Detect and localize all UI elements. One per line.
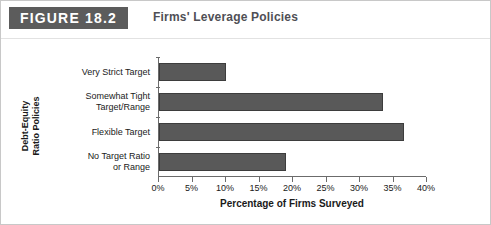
chart: Debt-Equity Ratio Policies Very Strict T… [1, 41, 491, 225]
figure-container: FIGURE 18.2 Firms' Leverage Policies Deb… [0, 0, 491, 225]
x-axis-tick [192, 177, 193, 182]
category-label-line: Target/Range [50, 102, 150, 113]
x-axis-tick [292, 177, 293, 182]
plot-area [158, 57, 426, 177]
figure-title: Firms' Leverage Policies [153, 10, 298, 24]
x-axis-tick-label: 40% [406, 183, 446, 193]
y-axis-title: Debt-Equity Ratio Policies [20, 78, 42, 174]
category-label-line: Flexible Target [50, 127, 150, 138]
y-axis-title-line-1: Debt-Equity [20, 78, 31, 174]
category-label-line: or Range [50, 162, 150, 173]
figure-number-badge: FIGURE 18.2 [9, 7, 128, 29]
x-axis-tick [225, 177, 226, 182]
category-label: Flexible Target [50, 127, 150, 138]
bar [159, 93, 383, 111]
y-axis-tick [156, 57, 160, 58]
y-axis-title-line-2: Ratio Policies [31, 78, 42, 174]
x-axis-tick [426, 177, 427, 182]
bar [159, 63, 226, 81]
category-label: No Target Ratioor Range [50, 151, 150, 173]
category-label-line: Somewhat Tight [50, 91, 150, 102]
x-axis-tick [158, 177, 159, 182]
category-label: Very Strict Target [50, 67, 150, 78]
header-divider [1, 38, 491, 39]
category-label-line: Very Strict Target [50, 67, 150, 78]
bar [159, 123, 404, 141]
y-axis-tick [156, 117, 160, 118]
y-axis-tick [156, 147, 160, 148]
x-axis-tick [259, 177, 260, 182]
bar [159, 153, 286, 171]
x-axis-tick [326, 177, 327, 182]
y-axis-tick [156, 87, 160, 88]
x-axis-tick-labels: 0%5%10%15%20%25%30%35%40% [158, 183, 426, 197]
category-label: Somewhat TightTarget/Range [50, 91, 150, 113]
x-axis-title: Percentage of Firms Surveyed [158, 198, 426, 209]
x-axis-tick [359, 177, 360, 182]
category-label-line: No Target Ratio [50, 151, 150, 162]
x-axis-tick [393, 177, 394, 182]
category-axis-labels: Very Strict TargetSomewhat TightTarget/R… [53, 57, 154, 177]
figure-header: FIGURE 18.2 Firms' Leverage Policies [1, 1, 491, 39]
